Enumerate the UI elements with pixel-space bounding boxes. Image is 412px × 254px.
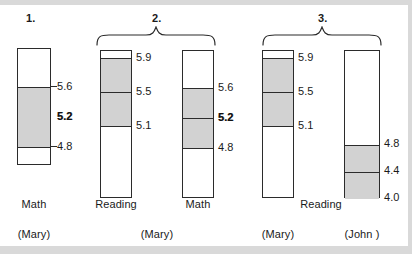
bar-1-value-top: 5.6 [57, 80, 73, 92]
bar-3-reading-mary-value-bottom: 5.1 [298, 119, 314, 131]
bar-3-reading-mary-top-line [263, 58, 293, 59]
bar-2-reading-value-bottom: 5.1 [136, 119, 152, 131]
group-number-2: 2. [152, 12, 162, 24]
bar-1-shaded-band [18, 87, 50, 147]
bar-2-math-top-line [183, 88, 213, 89]
scan-edge-band-right [408, 0, 412, 254]
bar-3-reading-mary [262, 50, 294, 198]
bar-2-math-value-top: 5.6 [218, 81, 234, 93]
bar-3-reading-john-value-top: 4.8 [384, 137, 400, 149]
bar-2-math-value-mid: 5.2 [218, 111, 234, 123]
bar-3-reading-john-value-mid: 4.4 [384, 164, 400, 176]
bar-2-reading-value-top: 5.9 [136, 51, 152, 63]
bar-3-reading-john-top-line [345, 145, 379, 146]
bar-2-math-mid-line [183, 118, 213, 119]
bar-2-math-value-bottom: 4.8 [218, 141, 234, 153]
group-2-brace [96, 26, 216, 46]
bar-2-math-subject-label: Math [165, 198, 231, 210]
group-3-subject-label: Reading [288, 198, 354, 210]
bar-1-subject-label: Math [0, 198, 68, 210]
bar-1-value-mid: 5.2 [57, 110, 73, 122]
scan-edge-band-top [0, 0, 412, 5]
bar-2-reading-subject-label: Reading [83, 198, 149, 210]
bar-2-reading-value-mid: 5.5 [136, 85, 152, 97]
bar-3-reading-mary-value-mid: 5.5 [298, 85, 314, 97]
bar-3-reading-john [344, 50, 380, 198]
bar-2-reading-mary [100, 50, 132, 198]
group-2-person-label: (Mary) [124, 228, 190, 240]
bar-2-reading-bottom-line [101, 126, 131, 127]
scan-edge-band-bottom [0, 246, 412, 254]
bar-1-math-mary [17, 48, 51, 165]
group-number-3: 3. [318, 12, 328, 24]
bar-3-reading-mary-bottom-line [263, 126, 293, 127]
bar-2-reading-top-line [101, 58, 131, 59]
group-3-brace [262, 26, 382, 46]
bar-3-reading-mary-value-top: 5.9 [298, 51, 314, 63]
bar-3-reading-john-mid-line [345, 172, 379, 173]
bar-3-reading-mary-mid-line [263, 92, 293, 93]
bar-3-reading-john-person-label: (John ) [329, 228, 395, 240]
bar-3-reading-mary-person-label: (Mary) [245, 228, 311, 240]
figure-canvas: 1. 5.6 5.2 4.8 Math (Mary) 2. 5.9 5.5 5.… [0, 0, 412, 254]
bar-2-math-bottom-line [183, 148, 213, 149]
bar-1-value-bottom: 4.8 [57, 140, 73, 152]
bar-1-person-label: (Mary) [0, 228, 68, 240]
group-number-1: 1. [26, 12, 36, 24]
bar-2-math-mary [182, 50, 214, 198]
bar-1-bottom-edge-line [18, 147, 50, 148]
bar-2-reading-mid-line [101, 92, 131, 93]
bar-1-top-edge-line [18, 87, 50, 88]
bar-3-reading-john-value-bottom: 4.0 [384, 191, 400, 203]
